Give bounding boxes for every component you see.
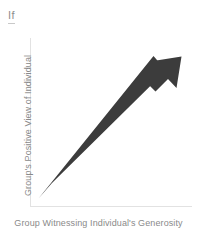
chart-figure: If Group's Positive View of Individual G… — [0, 0, 197, 242]
y-axis-label: Group's Positive View of Individual — [21, 26, 35, 196]
x-axis-label: Group Witnessing Individual's Generosity — [0, 216, 197, 230]
